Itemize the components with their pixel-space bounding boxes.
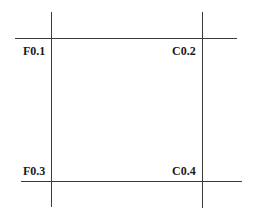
right-vertical-line <box>202 12 203 208</box>
top-horizontal-line <box>15 38 237 39</box>
left-vertical-line <box>51 12 52 207</box>
label-bottom-right: C0.4 <box>172 165 196 177</box>
label-bottom-left: F0.3 <box>23 165 45 177</box>
bottom-horizontal-line <box>21 181 242 182</box>
label-top-right: C0.2 <box>172 45 196 57</box>
label-top-left: F0.1 <box>23 45 45 57</box>
